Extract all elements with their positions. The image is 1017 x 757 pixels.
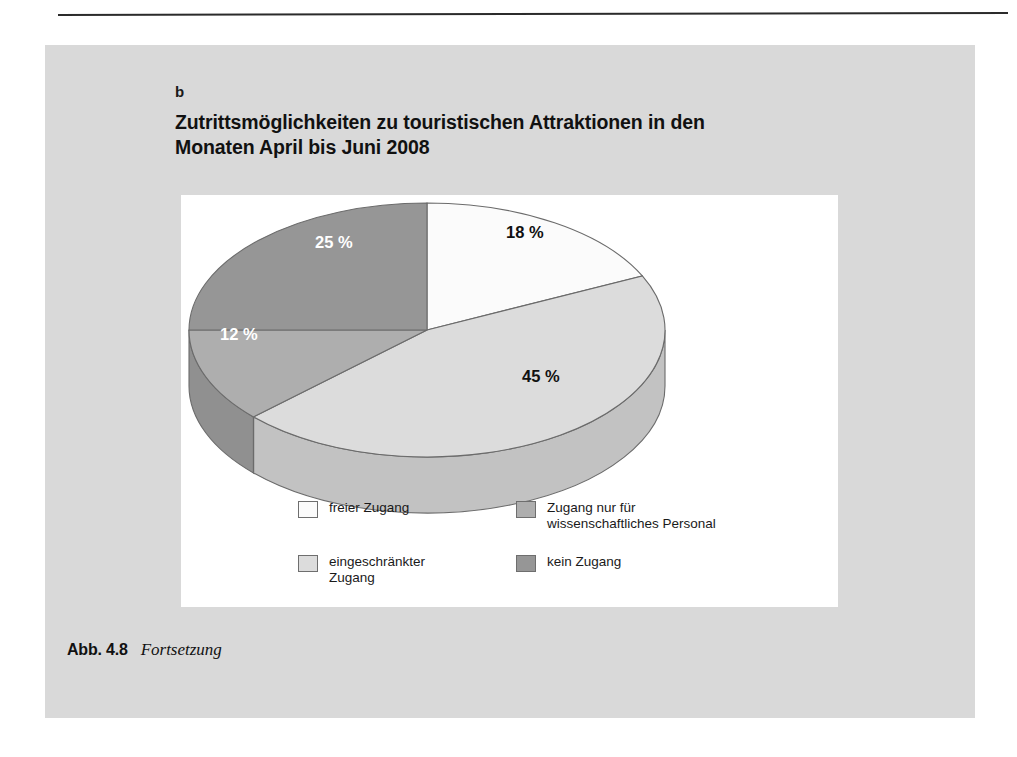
chart-title-line-2: Monaten April bis Juni 2008 <box>175 135 815 160</box>
pie-label-freier-zugang: 18 % <box>506 223 544 242</box>
pie-label-kein-zugang: 25 % <box>315 233 353 252</box>
legend-label-1: eingeschränkter Zugang <box>329 554 425 586</box>
figure-caption-text: Fortsetzung <box>141 640 222 659</box>
figure-caption: Abb. 4.8Fortsetzung <box>67 640 222 660</box>
legend-swatch-icon-3 <box>516 555 536 572</box>
legend-item-kein-zugang[interactable]: kein Zugang <box>516 554 621 572</box>
chart-title-line-1: Zutrittsmöglichkeiten zu touristischen A… <box>175 110 815 135</box>
page-header-rule <box>58 12 1008 16</box>
legend-swatch-icon-1 <box>298 555 318 572</box>
legend-item-eingeschraenkter-zugang[interactable]: eingeschränkter Zugang <box>298 554 425 586</box>
pie-chart-svg <box>181 195 838 515</box>
legend-label-2: Zugang nur für wissenschaftliches Person… <box>547 500 716 532</box>
pie-label-eingeschraenkter-zugang: 45 % <box>522 367 560 386</box>
legend-swatch-icon-0 <box>298 501 318 518</box>
legend-swatch-icon-2 <box>516 501 536 518</box>
figure-part-letter: b <box>175 83 184 100</box>
chart-legend: freier Zugang eingeschränkter Zugang Zug… <box>298 500 818 590</box>
pie-chart: 18 % 45 % 12 % 25 % <box>181 195 838 515</box>
chart-title: Zutrittsmöglichkeiten zu touristischen A… <box>175 110 815 160</box>
legend-item-freier-zugang[interactable]: freier Zugang <box>298 500 409 518</box>
pie-label-wissenschaftliches-personal: 12 % <box>220 325 258 344</box>
pie-3d-tops <box>189 203 665 457</box>
legend-label-3: kein Zugang <box>547 554 621 570</box>
pie-slice-3[interactable] <box>189 203 427 330</box>
figure-panel: b Zutrittsmöglichkeiten zu touristischen… <box>45 45 975 718</box>
legend-label-0: freier Zugang <box>329 500 409 516</box>
legend-item-wissenschaftliches-personal[interactable]: Zugang nur für wissenschaftliches Person… <box>516 500 716 532</box>
chart-plot-area: 18 % 45 % 12 % 25 % freier Zugang einges… <box>181 195 838 607</box>
figure-caption-label: Abb. 4.8 <box>67 641 128 658</box>
